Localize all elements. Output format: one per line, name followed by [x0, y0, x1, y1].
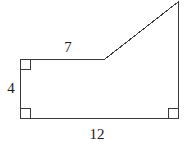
side-length-label-bottom: 12 — [82, 127, 112, 142]
bottom-right-right-angle-marker — [168, 108, 178, 118]
geometry-figure-canvas: 7 4 12 — [0, 0, 189, 146]
bottom-left-right-angle-marker — [20, 108, 30, 118]
polygon-figure — [0, 0, 189, 146]
polygon-outline — [20, 2, 178, 118]
top-left-right-angle-marker — [20, 59, 30, 69]
side-length-label-left: 4 — [2, 81, 20, 96]
side-length-label-top: 7 — [52, 40, 84, 55]
